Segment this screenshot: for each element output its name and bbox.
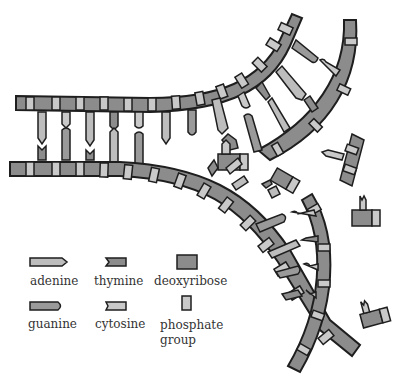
legend-label-guanine: guanine [28,317,77,331]
legend-label-thymine: thymine [94,274,143,288]
cytosine-symbol [106,302,126,310]
deoxyribose-symbol [177,255,197,269]
upper-parent-strand [16,14,302,112]
dna-replication-diagram: adenine thymine deoxyribose guanine cyto… [0,0,406,379]
guanine-symbol [30,302,61,310]
free-nucleotide-4 [357,296,391,328]
legend-label-cytosine: cytosine [95,317,145,331]
free-fragment-right [322,134,364,186]
legend-label-phosphate-group: group [160,333,196,347]
phosphate-symbol [182,296,191,310]
adenine-symbol [30,258,67,266]
free-nucleotides [208,134,391,328]
legend-label-phosphate: phosphate [160,318,223,332]
legend-label-adenine: adenine [30,274,78,288]
legend-label-deoxyribose: deoxyribose [154,274,227,288]
free-nucleotide-3 [352,196,380,226]
thymine-symbol [106,258,126,266]
